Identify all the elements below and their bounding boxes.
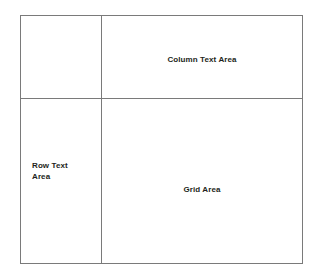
row-text-area-label: Row Text Area [32,160,94,182]
layout-frame: Column Text Area Row Text Area Grid Area [20,15,303,264]
column-text-area-cell: Column Text Area [101,16,302,98]
grid-area-label: Grid Area [102,184,302,195]
corner-cell [21,16,101,98]
grid-area-cell: Grid Area [101,98,302,263]
row-text-area-cell: Row Text Area [21,98,101,263]
column-text-area-label: Column Text Area [102,54,302,65]
diagram-canvas: Column Text Area Row Text Area Grid Area [0,0,320,279]
